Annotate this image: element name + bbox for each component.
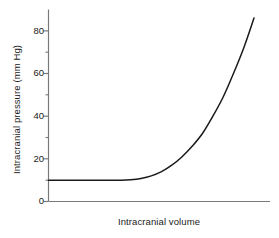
y-tick-label-20: 20 (22, 153, 44, 164)
y-tick-label-40: 40 (22, 110, 44, 121)
chart-figure: 0 20 40 60 80 Intracranial pressure (mm … (0, 0, 279, 238)
y-tick-label-60: 60 (22, 67, 44, 78)
y-tick-label-0: 0 (22, 195, 44, 206)
x-axis-title: Intracranial volume (48, 216, 270, 227)
y-axis-title: Intracranial pressure (mm Hg) (11, 15, 22, 205)
y-tick-label-80: 80 (22, 25, 44, 36)
